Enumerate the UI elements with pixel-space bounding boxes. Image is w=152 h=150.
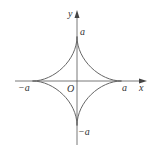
- astroid-diagram: y x O a a −a −a: [0, 0, 152, 150]
- cusp-label-top: a: [80, 26, 85, 37]
- origin-label: O: [67, 83, 74, 94]
- cusp-label-left: −a: [18, 82, 30, 93]
- cusp-label-right: a: [122, 82, 127, 93]
- y-axis-label: y: [67, 8, 73, 19]
- x-axis-label: x: [138, 82, 144, 93]
- cusp-label-bottom: −a: [78, 126, 90, 137]
- y-axis-arrow-icon: [75, 10, 80, 18]
